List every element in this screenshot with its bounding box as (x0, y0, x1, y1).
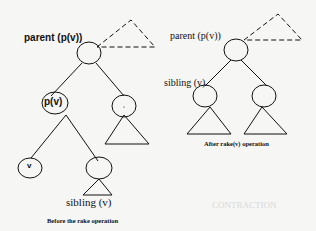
before-v-label: v (27, 162, 31, 170)
rake-operation-diagram: CONTRACTION (0, 0, 316, 231)
after-parent-label: parent (p(v)) (170, 31, 221, 41)
before-dashed-subtree (97, 20, 155, 47)
after-right-subtree (244, 107, 287, 134)
before-sibling-label: sibling (v) (66, 197, 112, 208)
after-sibling-label: sibling (v) (164, 78, 205, 88)
after-caption: After rake(v) operation (204, 141, 269, 148)
after-sibling-node (193, 85, 217, 107)
after-dashed-subtree (244, 14, 302, 40)
before-sibling-node (86, 157, 112, 179)
after-left-subtree (187, 107, 231, 134)
after-right-child-node (252, 85, 276, 107)
before-caption: Before the rake operation (47, 218, 118, 225)
before-parent-node (77, 42, 101, 64)
before-parent-label: parent (p(v)) (24, 33, 82, 43)
before-right-child-node (112, 95, 136, 117)
before-right-subtree (105, 115, 149, 144)
before-pv-label: p(v) (44, 97, 62, 107)
before-sibling-subtree (83, 179, 112, 195)
after-parent-node (224, 39, 248, 61)
